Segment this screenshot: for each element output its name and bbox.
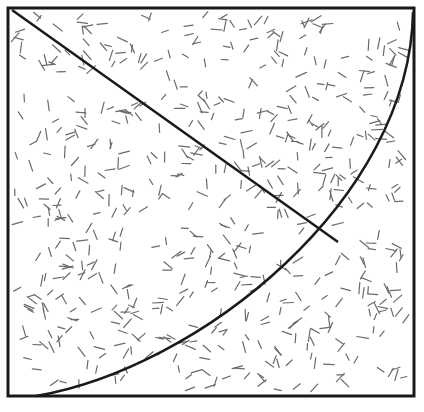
- geometry-figure: [0, 0, 424, 412]
- diagonal-line: [12, 10, 338, 242]
- circular-arc: [36, 12, 413, 396]
- stipple-texture: [11, 12, 409, 392]
- square-outline: [8, 8, 414, 396]
